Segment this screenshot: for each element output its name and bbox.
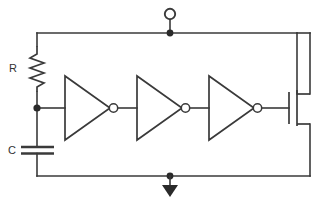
inverter-triangle-icon-3[interactable] [209,76,254,140]
inverter-2-symbol[interactable] [137,76,190,140]
inverter-1-symbol[interactable] [65,76,118,140]
figure-caption [0,200,321,207]
inverter-3-symbol[interactable] [209,76,262,140]
ground-arrow-icon [162,185,178,197]
inverter-triangle-icon-2[interactable] [137,76,182,140]
junction-dot-supply [167,30,174,37]
net-mosfet-rails [297,33,310,176]
resistor-zigzag-icon [30,46,44,92]
circuit-schematic-canvas [0,0,321,207]
resistor-label: R [9,63,17,74]
circuit-diagram: R C [0,0,321,207]
open-circle-terminal-icon[interactable] [165,9,175,19]
output-terminal[interactable] [165,9,175,33]
junction-dot-rc-node [33,104,40,111]
inverter-bubble-icon-3 [253,104,261,112]
inverter-triangle-icon-1[interactable] [65,76,110,140]
resistor-r-symbol [30,46,44,92]
capacitor-label: C [8,145,16,156]
capacitor-c-symbol [21,147,54,176]
inverter-bubble-icon-2 [181,104,189,112]
inverter-bubble-icon-1 [109,104,117,112]
mosfet-q1-symbol[interactable] [289,90,310,126]
ground-terminal [162,176,178,197]
net-rc-node [37,92,65,147]
